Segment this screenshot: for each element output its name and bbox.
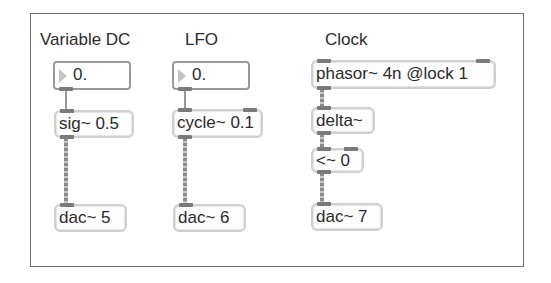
number-value: 0. bbox=[73, 65, 87, 84]
outlet[interactable] bbox=[178, 135, 192, 139]
outlet[interactable] bbox=[178, 87, 192, 91]
object-text: delta~ bbox=[316, 111, 363, 130]
inlet[interactable] bbox=[317, 106, 331, 110]
outlet[interactable] bbox=[60, 135, 74, 139]
inlet[interactable] bbox=[60, 203, 74, 207]
cable-number-to-cycle[interactable] bbox=[184, 90, 186, 109]
inlet-right[interactable] bbox=[243, 108, 257, 112]
inlet[interactable] bbox=[178, 108, 192, 112]
number-box-lfo[interactable]: 0. bbox=[172, 61, 250, 90]
object-text: cycle~ 0.1 bbox=[177, 113, 254, 132]
object-less-than[interactable]: <~ 0 bbox=[311, 148, 364, 173]
inlet[interactable] bbox=[317, 202, 331, 206]
cable-number-to-sig[interactable] bbox=[65, 90, 67, 110]
object-phasor[interactable]: phasor~ 4n @lock 1 bbox=[311, 60, 496, 89]
object-dac-6[interactable]: dac~ 6 bbox=[173, 204, 246, 232]
inlet-right[interactable] bbox=[344, 147, 358, 151]
outlet[interactable] bbox=[59, 87, 73, 91]
object-text: dac~ 5 bbox=[59, 208, 111, 227]
cable-lt-to-dac7[interactable] bbox=[320, 173, 324, 203]
label-clock: Clock bbox=[325, 30, 368, 50]
number-box-dc[interactable]: 0. bbox=[53, 61, 131, 90]
inlet[interactable] bbox=[179, 203, 193, 207]
object-text: phasor~ 4n @lock 1 bbox=[316, 64, 468, 83]
inlet[interactable] bbox=[317, 147, 331, 151]
cable-cycle-to-dac6[interactable] bbox=[183, 138, 187, 204]
label-lfo: LFO bbox=[185, 30, 218, 50]
outlet[interactable] bbox=[317, 86, 331, 90]
object-dac-7[interactable]: dac~ 7 bbox=[311, 203, 383, 231]
object-text: dac~ 7 bbox=[316, 207, 368, 226]
object-text: sig~ 0.5 bbox=[59, 114, 119, 133]
object-delta[interactable]: delta~ bbox=[311, 107, 375, 134]
inlet[interactable] bbox=[60, 109, 74, 113]
cable-sig-to-dac5[interactable] bbox=[64, 138, 68, 204]
number-triangle-icon bbox=[59, 69, 67, 83]
cable-delta-to-lt[interactable] bbox=[320, 134, 324, 148]
object-text: dac~ 6 bbox=[178, 208, 230, 227]
object-text: <~ 0 bbox=[316, 151, 350, 170]
outlet[interactable] bbox=[317, 170, 331, 174]
object-dac-5[interactable]: dac~ 5 bbox=[54, 204, 127, 232]
outlet[interactable] bbox=[317, 131, 331, 135]
object-cycle[interactable]: cycle~ 0.1 bbox=[172, 109, 263, 138]
inlet[interactable] bbox=[317, 59, 331, 63]
object-sig[interactable]: sig~ 0.5 bbox=[54, 110, 134, 138]
label-variable-dc: Variable DC bbox=[40, 30, 130, 50]
number-triangle-icon bbox=[178, 69, 186, 83]
number-value: 0. bbox=[192, 65, 206, 84]
cable-phasor-to-delta[interactable] bbox=[320, 89, 324, 107]
inlet-right[interactable] bbox=[476, 59, 490, 63]
